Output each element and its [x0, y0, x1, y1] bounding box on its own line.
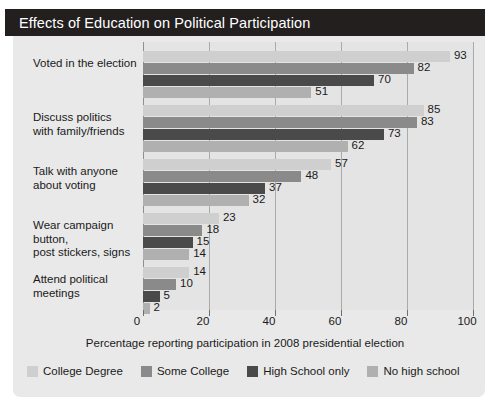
bar	[143, 225, 202, 236]
bar-row: 70	[143, 75, 473, 86]
category-label-line: about voting	[33, 179, 145, 193]
category-label: Wear campaign button,post stickers, sign…	[33, 219, 145, 260]
bar-value-label: 93	[454, 49, 467, 61]
legend-swatch	[27, 366, 38, 377]
category-label-line: Discuss politics	[33, 111, 145, 125]
bar-group: 93827051	[143, 51, 473, 99]
bar-row: 62	[143, 141, 473, 152]
bar-value-label: 83	[421, 115, 434, 127]
bar-value-label: 51	[315, 85, 328, 97]
bar-row: 23	[143, 213, 473, 224]
x-axis: 020406080100	[143, 310, 473, 330]
bar-row: 73	[143, 129, 473, 140]
bar	[143, 183, 265, 194]
bar-value-label: 85	[428, 103, 441, 115]
bar-row: 32	[143, 195, 473, 206]
tick-label-60: 60	[329, 315, 342, 327]
bar-groups: 93827051858373625748373223181514141052	[143, 42, 473, 310]
bar-row: 82	[143, 63, 473, 74]
plot-area: 93827051858373625748373223181514141052	[143, 42, 473, 310]
tick-label-80: 80	[395, 315, 408, 327]
legend-label: High School only	[263, 365, 349, 377]
bar-group: 141052	[143, 267, 473, 315]
bar	[143, 159, 331, 170]
tick-mark-0	[143, 310, 144, 316]
bar	[143, 237, 193, 248]
bar-group: 57483732	[143, 159, 473, 207]
category-label-line: Talk with anyone	[33, 165, 145, 179]
legend-item: College Degree	[27, 365, 123, 377]
category-label-line: post stickers, signs	[33, 246, 145, 260]
bar-value-label: 32	[253, 193, 266, 205]
category-label-line: meetings	[33, 287, 145, 301]
bar	[143, 63, 414, 74]
legend-swatch	[247, 366, 258, 377]
bar-group: 23181514	[143, 213, 473, 261]
bar-value-label: 10	[180, 277, 193, 289]
chart-legend: College DegreeSome CollegeHigh School on…	[27, 365, 478, 377]
bar-row: 83	[143, 117, 473, 128]
bar-value-label: 82	[418, 61, 431, 73]
category-label: Attend politicalmeetings	[33, 273, 145, 300]
bar	[143, 279, 176, 290]
bar-row: 10	[143, 279, 473, 290]
chart-title: Effects of Education on Political Partic…	[5, 15, 310, 31]
legend-item: Some College	[141, 365, 229, 377]
bar-row: 37	[143, 183, 473, 194]
bar-value-label: 48	[305, 169, 318, 181]
bar-row: 5	[143, 291, 473, 302]
bar-group: 85837362	[143, 105, 473, 153]
bar-value-label: 18	[206, 223, 219, 235]
bar-value-label: 73	[388, 127, 401, 139]
chart-title-bar: Effects of Education on Political Partic…	[5, 9, 485, 36]
legend-label: No high school	[383, 365, 459, 377]
x-axis-title: Percentage reporting participation in 20…	[5, 337, 485, 349]
category-label-line: Attend political	[33, 273, 145, 287]
category-label-line: Wear campaign button,	[33, 219, 145, 246]
legend-swatch	[141, 366, 152, 377]
bar	[143, 141, 348, 152]
bar-row: 51	[143, 87, 473, 98]
bar-value-label: 37	[269, 181, 282, 193]
bar	[143, 249, 189, 260]
bar	[143, 75, 374, 86]
category-label: Discuss politicswith family/friends	[33, 111, 145, 138]
bar-value-label: 14	[193, 247, 206, 259]
bar	[143, 195, 249, 206]
category-label-line: Voted in the election	[33, 57, 145, 71]
bar-value-label: 70	[378, 73, 391, 85]
tick-label-100: 100	[457, 315, 476, 327]
bar-value-label: 5	[164, 289, 170, 301]
category-label: Voted in the election	[33, 57, 145, 71]
bar-value-label: 62	[352, 139, 365, 151]
legend-swatch	[367, 366, 378, 377]
tick-label-40: 40	[263, 315, 276, 327]
bar-value-label: 23	[223, 211, 236, 223]
bar-row: 48	[143, 171, 473, 182]
category-label: Talk with anyoneabout voting	[33, 165, 145, 192]
bar	[143, 51, 450, 62]
legend-label: Some College	[157, 365, 229, 377]
bar	[143, 105, 424, 116]
tick-label-20: 20	[197, 315, 210, 327]
bar	[143, 129, 384, 140]
bar-row: 14	[143, 249, 473, 260]
legend-item: High School only	[247, 365, 349, 377]
legend-label: College Degree	[43, 365, 123, 377]
bar-value-label: 15	[197, 235, 210, 247]
chart-figure: Effects of Education on Political Partic…	[5, 9, 485, 399]
bar	[143, 87, 311, 98]
bar-value-label: 14	[193, 265, 206, 277]
category-label-line: with family/friends	[33, 125, 145, 139]
bar	[143, 117, 417, 128]
legend-item: No high school	[367, 365, 459, 377]
tick-label-0: 0	[134, 315, 140, 327]
gridline-100	[473, 42, 474, 310]
bar-row: 18	[143, 225, 473, 236]
bar-value-label: 57	[335, 157, 348, 169]
